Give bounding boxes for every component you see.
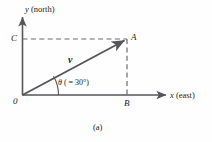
x-axis-label: x (east): [170, 91, 195, 100]
vector-diagram-canvas: [0, 0, 212, 142]
point-label-b: B: [124, 99, 130, 108]
point-label-c: C: [11, 34, 17, 43]
figure-caption: (a): [93, 123, 102, 132]
angle-label: θ ( = 30°): [58, 79, 89, 87]
y-axis-label-suffix: (north): [29, 4, 55, 14]
vector-label: v: [68, 55, 72, 65]
x-axis-label-suffix: (east): [174, 90, 195, 100]
y-axis-label: y (north): [25, 5, 55, 14]
angle-value-text: ( = 30°): [62, 78, 89, 87]
origin-label: 0: [13, 97, 18, 106]
point-label-a: A: [131, 33, 137, 42]
vector-diagram-figure: y (north) x (east) 0 A B C v θ ( = 30°) …: [0, 0, 212, 142]
